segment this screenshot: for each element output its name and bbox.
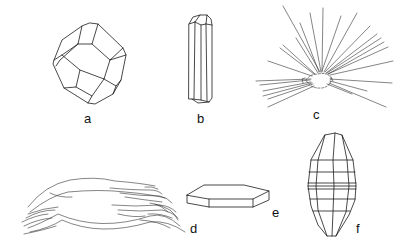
crystal-d-fibrous [22,178,185,234]
label-d: d [190,222,197,235]
label-a: a [84,112,91,125]
label-c: c [313,108,320,121]
label-e: e [272,206,279,219]
label-f: f [356,222,360,235]
crystal-f-bipyramidal [308,133,356,236]
label-b: b [197,112,204,125]
crystal-c-acicular [256,6,393,107]
crystal-e-tabular [187,185,269,207]
crystal-b-prismatic [189,15,212,103]
crystal-a-equant [53,23,126,104]
crystal-habits-diagram [0,0,409,245]
